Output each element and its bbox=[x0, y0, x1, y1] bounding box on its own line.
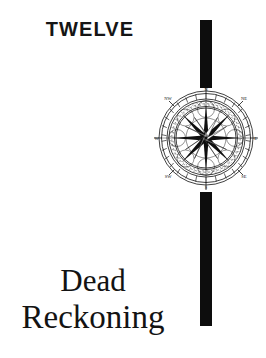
svg-text:NW: NW bbox=[164, 96, 172, 101]
chapter-title-line-1: Dead bbox=[0, 262, 186, 299]
svg-text:SE: SE bbox=[241, 174, 247, 179]
svg-text:NE: NE bbox=[241, 96, 247, 101]
chapter-title: Dead Reckoning bbox=[0, 262, 186, 336]
svg-text:S: S bbox=[205, 185, 208, 190]
chapter-number-word: TWELVE bbox=[0, 18, 180, 40]
svg-text:E: E bbox=[254, 136, 257, 141]
vertical-rule-top bbox=[200, 20, 212, 88]
compass-rose-illustration: N S W E NW NE SW SE bbox=[154, 86, 258, 190]
compass-rose-icon: N S W E NW NE SW SE bbox=[154, 86, 258, 190]
chapter-title-page: TWELVE bbox=[0, 0, 266, 358]
chapter-title-line-2: Reckoning bbox=[0, 299, 186, 336]
vertical-rule-bottom bbox=[200, 192, 212, 326]
svg-text:SW: SW bbox=[165, 174, 173, 179]
